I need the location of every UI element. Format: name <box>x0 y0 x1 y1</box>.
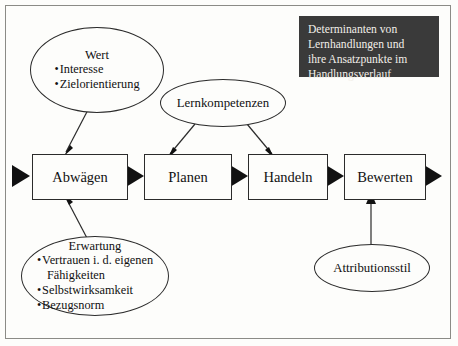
flow-arrow-abwaegen-planen <box>126 165 144 187</box>
diagram-canvas: Abwägen Planen Handeln Bewerten Wert Int… <box>0 0 458 346</box>
process-box-label: Bewerten <box>357 169 413 186</box>
list-item: Vertrauen i. d. eigenen <box>37 253 153 268</box>
title-line: Determinanten von <box>308 23 432 38</box>
link-wert-abwaegen <box>66 106 90 152</box>
title-line: Handlungsverlauf <box>308 68 432 83</box>
process-box-label: Abwägen <box>52 169 108 186</box>
ellipse-wert-list: Interesse Zielorientierung <box>54 62 139 92</box>
ellipse-attributionsstil[interactable]: Attributionsstil <box>314 244 430 292</box>
ellipse-lernkompetenzen-title: Lernkompetenzen <box>177 96 269 111</box>
process-box-label: Planen <box>168 169 207 186</box>
ellipse-wert[interactable]: Wert Interesse Zielorientierung <box>30 27 164 113</box>
process-box-label: Handeln <box>263 169 312 186</box>
flow-arrow-handeln-bewerten <box>326 165 344 187</box>
process-box-bewerten[interactable]: Bewerten <box>344 154 426 200</box>
entry-arrow-icon <box>12 165 30 187</box>
process-box-handeln[interactable]: Handeln <box>248 154 328 200</box>
list-item: Zielorientierung <box>54 77 139 92</box>
ellipse-attributionsstil-title: Attributionsstil <box>333 261 411 276</box>
ellipse-wert-title: Wert <box>85 48 109 62</box>
ellipse-erwartung[interactable]: Erwartung Vertrauen i. d. eigenen Fähigk… <box>21 236 169 316</box>
ellipse-lernkompetenzen[interactable]: Lernkompetenzen <box>160 79 286 127</box>
list-item: Interesse <box>54 62 139 77</box>
title-line: Lernhandlungen und <box>308 38 432 53</box>
process-box-planen[interactable]: Planen <box>144 154 232 200</box>
ellipse-erwartung-title: Erwartung <box>69 239 122 253</box>
title-box: Determinanten von Lernhandlungen und ihr… <box>299 16 439 77</box>
list-item: Selbstwirksamkeit <box>37 283 153 298</box>
ellipse-erwartung-list: Vertrauen i. d. eigenen Fähigkeiten Selb… <box>37 253 153 313</box>
process-box-abwaegen[interactable]: Abwägen <box>32 154 128 200</box>
list-item: Bezugsnorm <box>37 298 153 313</box>
exit-arrow-icon <box>424 165 442 187</box>
list-item-continuation: Fähigkeiten <box>37 268 153 283</box>
title-line: ihre Ansatzpunkte im <box>308 53 432 68</box>
flow-arrow-planen-handeln <box>230 165 248 187</box>
